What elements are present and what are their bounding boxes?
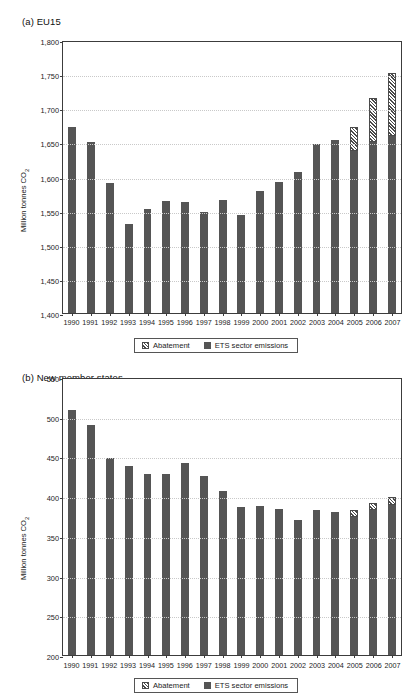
bar-stack [256,379,264,655]
y-tick-label: 1,600 [41,174,60,183]
bar-stack [200,379,208,655]
bar-group [63,42,82,313]
bar-ets-sector-emissions [200,476,208,656]
bar-group [101,42,120,313]
bar-ets-sector-emissions [219,200,227,313]
bar-stack [106,379,114,655]
bar-ets-sector-emissions [388,136,396,313]
bar-group [288,379,307,655]
bar-stack [369,42,377,313]
bar-stack [125,42,133,313]
panel-b-yaxis-title-text: Million tonnes CO [19,520,28,580]
bar-stack [388,379,396,655]
legend-item-abatement: Abatement [142,341,190,350]
bar-stack [294,379,302,655]
abatement-swatch-icon [142,342,149,349]
x-axis-label: 1992 [101,318,117,327]
bar-group [213,42,232,313]
legend-item-abatement: Abatement [142,681,190,690]
x-tick-mark [354,655,355,658]
x-tick-mark [260,655,261,658]
bar-group [363,379,382,655]
y-tick-mark [60,144,63,145]
bar-stack [87,42,95,313]
y-tick-mark [60,379,63,380]
x-axis-label: 1993 [120,318,136,327]
bar-ets-sector-emissions [237,215,245,313]
bar-stack [125,379,133,655]
y-tick-label: 1,750 [41,72,60,81]
x-tick-mark [279,313,280,316]
bar-ets-sector-emissions [275,509,283,655]
bar-stack [87,379,95,655]
x-tick-mark [129,313,130,316]
y-tick-label: 550 [47,375,59,384]
gridline [63,247,401,248]
bar-ets-sector-emissions [106,183,114,313]
x-axis-label: 2000 [252,318,268,327]
x-tick-mark [260,313,261,316]
x-tick-mark [91,655,92,658]
x-tick-mark [373,313,374,316]
panel-b-legend: Abatement ETS sector emissions [134,678,298,693]
legend-item-ets: ETS sector emissions [204,681,288,690]
gridline [63,458,401,459]
y-tick-mark [60,179,63,180]
x-tick-mark [166,313,167,316]
bar-stack [369,379,377,655]
x-axis-label: 1997 [196,661,212,670]
y-tick-label: 1,800 [41,38,60,47]
bar-ets-sector-emissions [313,510,321,655]
bar-abatement [350,127,358,151]
x-axis-label: 2003 [309,661,325,670]
x-tick-mark [185,313,186,316]
y-tick-mark [60,76,63,77]
bar-group [101,379,120,655]
x-axis-label: 1994 [139,318,155,327]
bar-ets-sector-emissions [294,520,302,655]
bar-group [119,42,138,313]
panel-b-yaxis-title-sub: 2 [24,517,30,520]
y-tick-label: 250 [47,613,59,622]
bar-ets-sector-emissions [256,506,264,655]
x-axis-label: 1999 [233,318,249,327]
bar-group [326,379,345,655]
x-axis-label: 2000 [252,661,268,670]
bar-ets-sector-emissions [369,142,377,313]
x-axis-label: 1995 [158,318,174,327]
x-tick-mark [91,313,92,316]
bar-group [251,379,270,655]
bar-ets-sector-emissions [331,512,339,655]
x-axis-label: 1995 [158,661,174,670]
x-tick-mark [185,655,186,658]
x-axis-label: 1990 [63,661,79,670]
x-axis-label: 2002 [290,318,306,327]
x-tick-mark [335,655,336,658]
x-tick-mark [166,655,167,658]
bar-group [138,379,157,655]
bar-stack [256,42,264,313]
y-tick-mark [60,578,63,579]
bar-stack [388,42,396,313]
bar-ets-sector-emissions [237,507,245,655]
panel-a-legend: Abatement ETS sector emissions [134,338,298,353]
bar-group [345,42,364,313]
x-axis-label: 1992 [101,661,117,670]
bar-ets-sector-emissions [162,474,170,655]
y-tick-label: 200 [47,653,59,662]
bar-ets-sector-emissions [125,466,133,655]
bar-abatement [350,510,358,516]
bar-abatement [388,73,396,136]
bar-stack [144,42,152,313]
panel-a-yaxis-title: Million tonnes CO2 [19,169,30,232]
y-tick-mark [60,281,63,282]
x-axis-label: 2007 [385,318,401,327]
bar-stack [294,42,302,313]
legend-label-ets: ETS sector emissions [215,681,288,690]
x-tick-mark [72,655,73,658]
bar-abatement [369,503,377,510]
bar-group [270,379,289,655]
y-tick-mark [60,538,63,539]
x-tick-mark [241,655,242,658]
x-tick-mark [72,313,73,316]
